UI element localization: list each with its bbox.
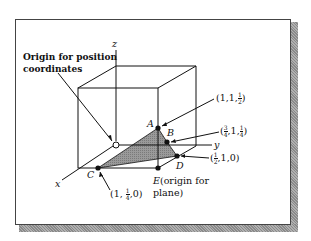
fraction: 14 [126, 188, 130, 201]
coord: 0 [230, 152, 236, 163]
y-axis-label: y [214, 139, 219, 150]
denominator: 2 [238, 99, 242, 105]
point-b-label: B [167, 127, 174, 138]
d-leader [181, 156, 209, 158]
origin-marker [113, 142, 119, 148]
point-a-coords: (1,1,12) [216, 92, 245, 105]
fraction: 34 [224, 125, 228, 138]
arrowhead [171, 139, 176, 143]
unit-cell-diagram [0, 0, 311, 241]
fraction: 14 [240, 125, 244, 138]
point-b [164, 139, 169, 144]
point-e-letter: E [153, 175, 160, 186]
denominator: 4 [126, 195, 130, 201]
fraction: 12 [214, 152, 218, 165]
point-e-note-line1: (origin for [160, 175, 209, 186]
coord: 1 [229, 92, 235, 103]
z-axis-label: z [112, 38, 117, 49]
coord: 0 [133, 188, 139, 199]
point-b-coords: (34,1,14) [220, 125, 247, 138]
denominator: 2 [214, 159, 218, 165]
point-e-label: E(origin for [153, 175, 209, 186]
point-e-note-line2: plane) [153, 187, 183, 198]
coord: 1 [114, 188, 120, 199]
point-c-label: C [87, 169, 94, 180]
coord: 1 [220, 92, 226, 103]
origin-label-line2: coordinates [23, 64, 82, 75]
denominator: 4 [240, 132, 244, 138]
x-axis-label: x [55, 178, 60, 189]
point-e [155, 165, 160, 170]
point-c [95, 165, 100, 170]
cube-edge [158, 66, 196, 88]
point-c-coords: (1, 14,0) [110, 188, 142, 201]
cube-edge [78, 66, 116, 88]
denominator: 4 [224, 132, 228, 138]
point-a [155, 125, 160, 130]
arrowhead [162, 122, 167, 126]
coord: 1 [221, 152, 227, 163]
fraction: 12 [238, 92, 242, 105]
coord: 1 [231, 125, 237, 136]
point-d [174, 153, 179, 158]
arrowhead [108, 135, 112, 141]
point-d-coords: (12,1,0) [210, 152, 239, 165]
origin-label-line1: Origin for position [23, 52, 117, 63]
b-leader [171, 132, 219, 142]
point-a-label: A [147, 118, 154, 129]
a-leader [162, 99, 214, 126]
origin-leader [58, 73, 112, 141]
point-d-label: D [176, 160, 184, 171]
